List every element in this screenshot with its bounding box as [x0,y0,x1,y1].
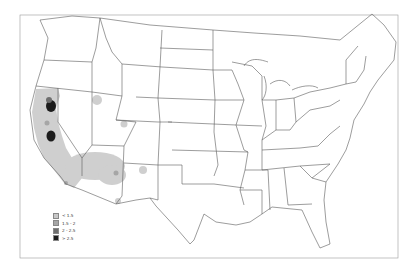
map-frame [20,15,398,258]
legend-swatch [53,235,59,241]
legend-item: < 1.5 [53,212,76,220]
legend-label: < 1.5 [62,213,74,218]
legend-item: 2 - 2.5 [53,227,76,235]
legend-item: 1.5 - 2 [53,220,76,228]
state-boundaries [30,14,396,248]
legend-swatch [53,220,59,226]
density-layer [32,88,147,204]
legend: < 1.5 1.5 - 2 2 - 2.5 > 2.5 [53,212,76,242]
legend-swatch [53,228,59,234]
legend-swatch [53,213,59,219]
legend-label: 1.5 - 2 [62,221,76,226]
legend-item: > 2.5 [53,235,76,243]
legend-label: > 2.5 [62,236,74,241]
legend-label: 2 - 2.5 [62,228,76,233]
